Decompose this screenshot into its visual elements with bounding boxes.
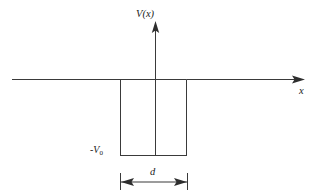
- square-well-group: [120, 80, 187, 156]
- v-axis-label: V(x): [136, 9, 154, 20]
- well-depth-label: -V0: [90, 145, 103, 157]
- figure-canvas: [0, 0, 321, 195]
- x-axis-label: x: [299, 86, 304, 97]
- well-depth-subscript: 0: [99, 149, 103, 157]
- well-width-label: d: [150, 167, 155, 178]
- x-axis-group: [12, 76, 305, 84]
- potential-well-figure: V(x) x -V0 d: [0, 0, 321, 195]
- v-axis-group: [152, 21, 159, 156]
